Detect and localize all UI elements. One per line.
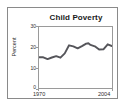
x-tick-label-1970: 1970 (33, 91, 45, 97)
y-axis-label: Percent (11, 27, 17, 67)
y-axis-tick-labels: 30 20 10 0 (22, 26, 36, 89)
x-tick-label-2004: 2004 (98, 91, 110, 97)
data-line-child-poverty (39, 27, 112, 88)
x-tick-mark-2004 (112, 89, 113, 91)
chart-title: Child Poverty (38, 13, 114, 22)
plot-area (38, 26, 113, 89)
chart-figure: Child Poverty 30 20 10 0 Percent 1970 20… (0, 0, 126, 111)
